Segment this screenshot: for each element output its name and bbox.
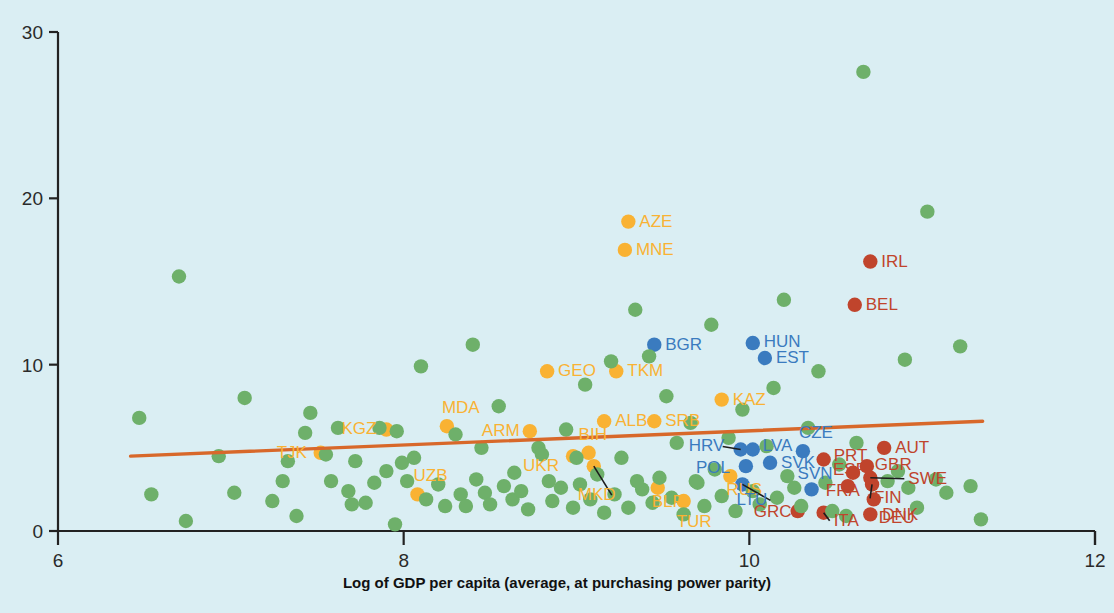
point-label-HRV: HRV — [689, 436, 725, 455]
data-point — [974, 512, 988, 526]
data-point — [652, 471, 666, 485]
point-label-BGR: BGR — [665, 335, 702, 354]
data-point — [407, 451, 421, 465]
chart-svg: 0102030681012 TJKKGZMDAARMUZBUKRGEOTKMAZ… — [0, 0, 1114, 613]
data-point-POL — [739, 459, 753, 473]
data-point-AZE — [621, 214, 635, 228]
data-point — [466, 338, 480, 352]
data-point-DNK — [863, 507, 877, 521]
data-point — [704, 318, 718, 332]
data-point — [303, 406, 317, 420]
point-label-KAZ: KAZ — [733, 390, 766, 409]
point-label-CZE: CZE — [799, 423, 833, 442]
data-point — [324, 474, 338, 488]
point-label-KGZ: KGZ — [341, 419, 376, 438]
data-point — [953, 339, 967, 353]
data-point — [448, 427, 462, 441]
data-point — [275, 474, 289, 488]
data-point-ARM — [523, 424, 537, 438]
data-point-SRB — [647, 414, 661, 428]
data-point — [345, 497, 359, 511]
point-label-MDA: MDA — [442, 398, 480, 417]
point-label-ESP: ESP — [833, 460, 867, 479]
data-point — [507, 466, 521, 480]
point-label-GRC: GRC — [754, 502, 792, 521]
data-point — [419, 492, 433, 506]
data-point-IRL — [863, 254, 877, 268]
data-point-AUT — [877, 441, 891, 455]
data-point-SVN — [804, 482, 818, 496]
point-label-AUT: AUT — [895, 438, 929, 457]
data-point — [237, 391, 251, 405]
data-point — [811, 364, 825, 378]
data-point-MNE — [618, 243, 632, 257]
y-tick-label-20: 20 — [22, 188, 43, 209]
data-point — [554, 481, 568, 495]
point-label-SRB: SRB — [665, 411, 700, 430]
data-point — [614, 451, 628, 465]
x-tick-label-10: 10 — [739, 550, 760, 571]
data-point-HUN — [746, 336, 760, 350]
data-point — [545, 494, 559, 508]
point-label-ALB: ALB — [615, 411, 647, 430]
data-point — [856, 65, 870, 79]
data-point — [348, 454, 362, 468]
data-point — [497, 479, 511, 493]
data-point — [483, 497, 497, 511]
data-point — [289, 509, 303, 523]
x-axis-title: Log of GDP per capita (average, at purch… — [343, 574, 771, 591]
data-point — [132, 411, 146, 425]
point-label-UZB: UZB — [413, 466, 447, 485]
data-point-KAZ — [714, 392, 728, 406]
point-label-FRA: FRA — [826, 481, 861, 500]
point-label-AZE: AZE — [639, 212, 672, 231]
data-point — [414, 359, 428, 373]
data-point-BEL — [848, 298, 862, 312]
data-point — [963, 479, 977, 493]
y-tick-label-0: 0 — [32, 521, 43, 542]
point-label-ARM: ARM — [482, 421, 520, 440]
data-point — [794, 499, 808, 513]
data-point-GEO — [540, 364, 554, 378]
data-point — [367, 476, 381, 490]
data-point — [659, 389, 673, 403]
data-point — [388, 517, 402, 531]
point-label-BEL: BEL — [866, 295, 898, 314]
point-label-MNE: MNE — [636, 240, 674, 259]
data-point — [358, 496, 372, 510]
point-label-GBR: GBR — [875, 455, 912, 474]
data-point — [604, 354, 618, 368]
data-point — [514, 484, 528, 498]
point-label-BLR: BLR — [652, 492, 685, 511]
data-point-EST — [758, 351, 772, 365]
data-point — [521, 502, 535, 516]
data-point — [777, 293, 791, 307]
data-point — [459, 499, 473, 513]
point-label-POL: POL — [696, 458, 730, 477]
data-point — [298, 426, 312, 440]
point-label-UKR: UKR — [523, 456, 559, 475]
x-tick-label-8: 8 — [398, 550, 409, 571]
point-label-DNK: DNK — [882, 505, 919, 524]
data-point — [880, 474, 894, 488]
point-label-BIH: BIH — [579, 425, 607, 444]
data-point — [469, 472, 483, 486]
data-point — [542, 474, 556, 488]
data-point-LVA — [746, 442, 760, 456]
data-point — [341, 484, 355, 498]
point-label-GEO: GEO — [558, 361, 596, 380]
point-label-MKD: MKD — [578, 485, 616, 504]
data-point — [227, 486, 241, 500]
data-point — [400, 474, 414, 488]
data-point — [920, 204, 934, 218]
data-point — [438, 499, 452, 513]
data-point — [179, 514, 193, 528]
point-label-IRL: IRL — [881, 252, 907, 271]
data-point — [766, 381, 780, 395]
data-point — [265, 494, 279, 508]
data-point-SVK — [763, 456, 777, 470]
point-label-TUR: TUR — [677, 512, 712, 531]
scatter-plot: 0102030681012 TJKKGZMDAARMUZBUKRGEOTKMAZ… — [0, 0, 1114, 613]
x-tick-label-6: 6 — [53, 550, 64, 571]
x-tick-label-12: 12 — [1084, 550, 1105, 571]
